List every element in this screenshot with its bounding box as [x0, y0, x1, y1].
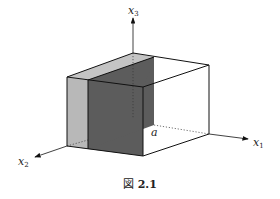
caption-number: 2.1	[138, 178, 157, 191]
x2-label: x2	[18, 155, 29, 169]
caption-prefix: 図	[123, 178, 134, 191]
x1-label: x1	[253, 136, 264, 150]
x1-axis	[209, 134, 248, 139]
box-diagram: x3 x1 x2 a	[0, 0, 280, 199]
figure-caption: 図 2.1	[0, 175, 280, 191]
x3-label: x3	[128, 4, 139, 18]
light-shaded-face	[67, 77, 88, 149]
point-a-label: a	[151, 126, 158, 139]
hidden-edge-a	[154, 125, 209, 134]
x2-axis	[35, 146, 67, 157]
